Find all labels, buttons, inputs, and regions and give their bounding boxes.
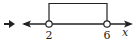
arrow-right-icon	[4, 20, 15, 28]
number-line-axis	[22, 21, 133, 28]
number-line-diagram: 2 6 x	[0, 0, 137, 45]
axis-variable-label: x	[122, 26, 129, 39]
tick-label-right: 6	[104, 29, 111, 42]
tick-label-left: 2	[46, 29, 53, 42]
interval-bracket	[49, 4, 107, 25]
open-endpoint-left	[46, 21, 52, 27]
open-endpoint-right	[104, 21, 110, 27]
